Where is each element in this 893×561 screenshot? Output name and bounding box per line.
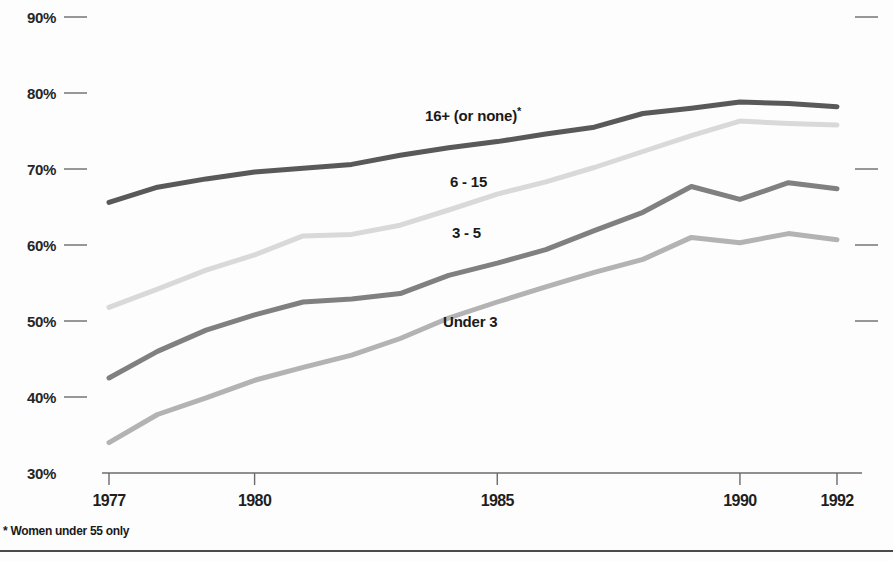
series-label-text: 3 - 5 xyxy=(452,224,481,241)
y-axis-tick-label: 80% xyxy=(4,85,56,102)
x-axis-tick-label: 1992 xyxy=(820,492,853,510)
footnote-text: * Women under 55 only xyxy=(3,524,129,538)
x-axis-tick-marks xyxy=(109,473,837,485)
y-axis-tick-label: 70% xyxy=(4,161,56,178)
y-axis-tick-label: 60% xyxy=(4,237,56,254)
series-label: 3 - 5 xyxy=(452,224,481,241)
series-line xyxy=(109,183,837,378)
series-label-text: Under 3 xyxy=(443,313,497,330)
x-axis-tick-label: 1980 xyxy=(238,492,271,510)
series-label-text: 16+ (or none) xyxy=(425,107,517,124)
y-axis-tick-label: 50% xyxy=(4,313,56,330)
line-chart-plot xyxy=(0,0,893,561)
series-line xyxy=(109,121,837,307)
x-axis-tick-label: 1985 xyxy=(481,492,514,510)
series-label: Under 3 xyxy=(443,313,497,330)
y-axis-tick-label: 40% xyxy=(4,389,56,406)
series-label: 16+ (or none)* xyxy=(425,105,521,124)
bottom-divider xyxy=(0,550,893,552)
series-lines xyxy=(109,102,837,443)
series-label: 6 - 15 xyxy=(450,173,487,190)
chart-figure: 30%40%50%60%70%80%90% 197719801985199019… xyxy=(0,0,893,561)
x-axis-tick-label: 1977 xyxy=(92,492,125,510)
y-axis-tick-label: 90% xyxy=(4,9,56,26)
x-axis-tick-label: 1990 xyxy=(723,492,756,510)
series-label-footnote-marker: * xyxy=(517,105,521,117)
series-label-text: 6 - 15 xyxy=(450,173,487,190)
y-axis-tick-label: 30% xyxy=(4,465,56,482)
